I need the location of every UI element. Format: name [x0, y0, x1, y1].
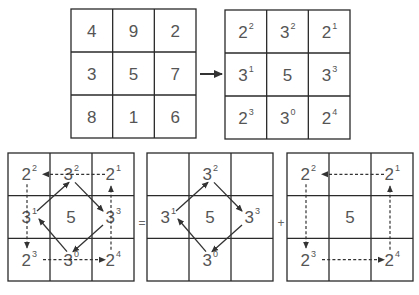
power-cell: 24 — [322, 107, 337, 128]
cell-value: 7 — [170, 65, 179, 84]
power-exponent: 4 — [116, 249, 121, 259]
power-base: 2 — [238, 23, 247, 42]
cell-value: 9 — [129, 22, 138, 41]
power-base: 2 — [238, 109, 247, 128]
magic-square-diagram: 492357816 22322131533233024 223221315332… — [0, 0, 419, 295]
power-base: 2 — [322, 109, 331, 128]
power-cell: 22 — [301, 163, 316, 184]
cell-value: 2 — [170, 22, 179, 41]
power-exponent: 4 — [332, 107, 337, 117]
power-exponent: 0 — [291, 107, 296, 117]
power-base: 3 — [22, 208, 31, 227]
power-cell: 31 — [22, 206, 37, 227]
power-exponent: 1 — [249, 64, 254, 74]
power-base: 3 — [245, 208, 254, 227]
power-base: 3 — [203, 165, 212, 184]
power-exponent: 2 — [213, 163, 218, 173]
power-cell: 22 — [238, 21, 253, 42]
power-base: 2 — [22, 251, 31, 270]
power-exponent: 1 — [395, 163, 400, 173]
equals-sign: = — [138, 216, 145, 230]
power-cell: 21 — [106, 163, 121, 184]
power-cell: 21 — [322, 21, 337, 42]
cycle-arrow-3-0-to-3-1 — [178, 219, 206, 252]
power-exponent: 1 — [332, 21, 337, 31]
power-exponent: 4 — [395, 249, 400, 259]
power-base: 3 — [322, 66, 331, 85]
power-cell: 33 — [106, 206, 121, 227]
power-exponent: 2 — [311, 163, 316, 173]
powers-of-3-square-grid: 323153330 — [147, 153, 273, 281]
power-cell: 23 — [238, 107, 253, 128]
center-value: 5 — [205, 208, 214, 227]
magic-square-grid: 492357816 — [71, 9, 196, 138]
cell-value: 3 — [87, 65, 96, 84]
power-exponent: 1 — [171, 206, 176, 216]
center-value: 5 — [283, 66, 292, 85]
power-base: 3 — [203, 251, 212, 270]
cell-value: 8 — [87, 108, 96, 127]
power-exponent: 3 — [332, 64, 337, 74]
power-exponent: 2 — [249, 21, 254, 31]
powers-of-2-square-grid: 222152324 — [287, 153, 413, 281]
power-base: 2 — [22, 165, 31, 184]
cell-value: 4 — [87, 22, 96, 41]
power-cell: 23 — [301, 249, 316, 270]
power-base: 2 — [385, 251, 394, 270]
power-cell: 31 — [161, 206, 176, 227]
power-exponent: 3 — [311, 249, 316, 259]
power-cell: 30 — [203, 249, 218, 270]
power-square-grid: 22322131533233024 — [225, 10, 350, 139]
power-cell: 32 — [280, 21, 295, 42]
plus-sign: + — [277, 216, 284, 230]
power-cell: 23 — [22, 249, 37, 270]
power-cell: 30 — [280, 107, 295, 128]
power-cell: 22 — [22, 163, 37, 184]
power-base: 3 — [280, 109, 289, 128]
cell-value: 5 — [129, 65, 138, 84]
power-exponent: 2 — [74, 163, 79, 173]
cycle-arrow-3-0-to-3-1 — [39, 219, 67, 252]
power-base: 3 — [161, 208, 170, 227]
cell-value: 5 — [345, 208, 354, 227]
power-cell: 31 — [238, 64, 253, 85]
combined-square-grid: 22322131533233024 — [8, 153, 134, 281]
power-exponent: 1 — [32, 206, 37, 216]
power-cell: 33 — [245, 206, 260, 227]
power-cell: 24 — [106, 249, 121, 270]
cycle-arrow-3-2-to-3-3 — [75, 182, 103, 211]
center-value: 5 — [345, 208, 354, 227]
power-cell: 21 — [385, 163, 400, 184]
power-base: 3 — [280, 23, 289, 42]
cell-value: 5 — [283, 66, 292, 85]
power-exponent: 3 — [116, 206, 121, 216]
power-exponent: 3 — [32, 249, 37, 259]
power-cell: 32 — [203, 163, 218, 184]
cell-value: 1 — [129, 108, 138, 127]
center-value: 5 — [66, 208, 75, 227]
power-base: 2 — [301, 251, 310, 270]
power-exponent: 2 — [32, 163, 37, 173]
power-base: 2 — [106, 251, 115, 270]
cell-value: 6 — [170, 108, 179, 127]
cell-value: 5 — [205, 208, 214, 227]
cycle-arrow-3-2-to-3-3 — [214, 182, 242, 211]
power-exponent: 3 — [249, 107, 254, 117]
power-base: 3 — [238, 66, 247, 85]
power-base: 2 — [106, 165, 115, 184]
cycle-arrow-3-1-to-3-2 — [176, 182, 208, 211]
power-cell: 33 — [322, 64, 337, 85]
power-exponent: 2 — [291, 21, 296, 31]
cycle-arrow-3-1-to-3-2 — [37, 182, 69, 211]
power-base: 2 — [322, 23, 331, 42]
power-base: 2 — [301, 165, 310, 184]
power-exponent: 3 — [255, 206, 260, 216]
power-cell: 24 — [385, 249, 400, 270]
power-base: 3 — [106, 208, 115, 227]
cell-value: 5 — [66, 208, 75, 227]
power-exponent: 1 — [116, 163, 121, 173]
power-base: 2 — [385, 165, 394, 184]
